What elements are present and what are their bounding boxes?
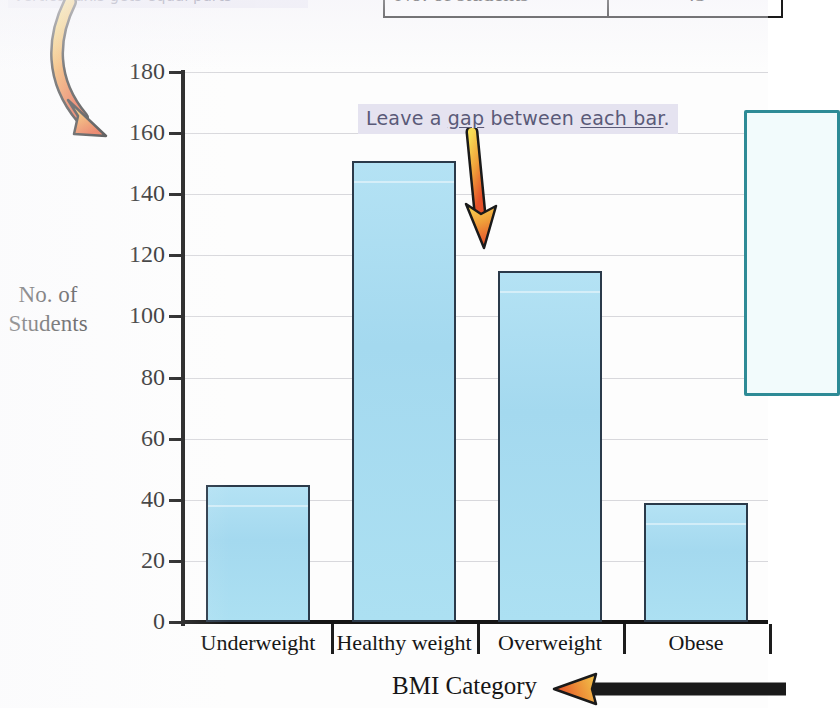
category-label-overweight: Overweight: [477, 630, 623, 656]
category-label-obese: Obese: [623, 630, 769, 656]
category-separator: [769, 624, 772, 654]
bar-obese: [644, 503, 748, 622]
gap-annotation-note: Leave a gap between each bar.: [358, 104, 678, 134]
students-table: No. of students45: [383, 0, 783, 18]
side-callout-box: [744, 110, 840, 396]
y-tick-label: 160: [95, 119, 165, 146]
category-label-healthy-weight: Healthy weight: [331, 630, 477, 656]
y-tick-label: 100: [95, 302, 165, 329]
y-tick-label: 0: [95, 608, 165, 635]
y-axis-line: [181, 70, 185, 626]
category-label-underweight: Underweight: [185, 630, 331, 656]
gridline: [185, 439, 768, 440]
y-axis-title-line2: Students: [2, 309, 94, 338]
gap-note-word-each-bar: each bar: [580, 107, 663, 129]
gap-note-suffix: .: [664, 107, 670, 129]
gridline: [185, 255, 768, 256]
x-axis-title: BMI Category: [392, 672, 537, 700]
gridline: [185, 378, 768, 379]
y-axis-title-line1: No. of: [2, 280, 94, 309]
gridline: [185, 72, 768, 73]
y-tick-label: 60: [95, 425, 165, 452]
y-tick-label: 120: [95, 241, 165, 268]
y-tick-label: 140: [95, 180, 165, 207]
y-axis-title: No. of Students: [2, 280, 94, 338]
y-tick-label: 40: [95, 486, 165, 513]
table-row-label: No. of students: [384, 0, 608, 17]
y-tick-label: 20: [95, 547, 165, 574]
gap-note-prefix: Leave a: [366, 107, 448, 129]
bar-underweight: [206, 485, 310, 623]
bar-healthy-weight: [352, 161, 456, 622]
gap-note-word-gap: gap: [448, 107, 484, 129]
gridline: [185, 194, 768, 195]
y-tick-label: 80: [95, 364, 165, 391]
table-row-value: 45: [608, 0, 782, 17]
table-row: No. of students45: [384, 0, 782, 17]
bar-overweight: [498, 271, 602, 622]
y-tick-label: 180: [95, 58, 165, 85]
gridline: [185, 316, 768, 317]
top-left-note: vertical axis gets equal parts: [8, 0, 308, 8]
gap-note-middle: between: [484, 107, 580, 129]
